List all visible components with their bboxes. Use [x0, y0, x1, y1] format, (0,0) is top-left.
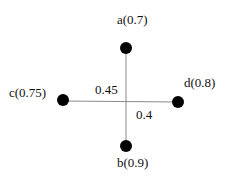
node-c	[57, 94, 69, 106]
node-b-label: b(0.9)	[117, 156, 148, 169]
node-b	[120, 140, 132, 152]
edge-c-d-weight: 0.4	[136, 108, 152, 121]
node-d-label: d(0.8)	[184, 76, 215, 89]
edge-c-d	[63, 101, 178, 102]
node-d	[172, 96, 184, 108]
node-a-label: a(0.7)	[117, 13, 148, 26]
edge-a-b-weight: 0.45	[95, 83, 118, 96]
node-c-label: c(0.75)	[9, 86, 46, 99]
node-a	[120, 42, 132, 54]
